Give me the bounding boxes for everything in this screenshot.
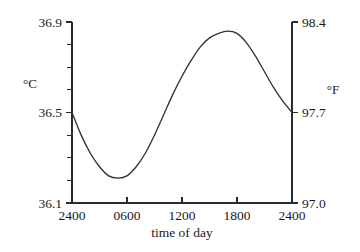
right-axis-ticks xyxy=(292,22,298,203)
x-axis-tick-labels: 24000600120018002400 xyxy=(59,208,306,223)
left-axis-unit-label: °C xyxy=(23,76,37,91)
x-axis-tick-label: 0600 xyxy=(114,208,141,223)
right-axis-unit-label: °F xyxy=(327,82,339,97)
temperature-curve xyxy=(72,31,292,178)
chart-svg: 36.136.536.9 97.097.798.4 24000600120018… xyxy=(0,0,360,252)
left-axis-tick-label: 36.5 xyxy=(38,105,62,120)
x-axis-tick-label: 1200 xyxy=(169,208,196,223)
x-axis-title: time of day xyxy=(151,225,213,240)
right-axis-tick-label: 98.4 xyxy=(302,15,326,30)
left-axis-tick-labels: 36.136.536.9 xyxy=(38,15,62,211)
right-axis-tick-label: 97.7 xyxy=(302,105,326,120)
left-axis-ticks xyxy=(66,22,72,203)
x-axis-tick-label: 2400 xyxy=(279,208,306,223)
x-axis-tick-label: 1800 xyxy=(224,208,251,223)
chart-figure: 36.136.536.9 97.097.798.4 24000600120018… xyxy=(0,0,360,252)
right-axis-tick-label: 97.0 xyxy=(302,196,326,211)
x-axis-ticks xyxy=(72,197,292,203)
right-axis-tick-labels: 97.097.798.4 xyxy=(302,15,326,211)
left-axis-tick-label: 36.9 xyxy=(38,15,62,30)
x-axis-tick-label: 2400 xyxy=(59,208,86,223)
